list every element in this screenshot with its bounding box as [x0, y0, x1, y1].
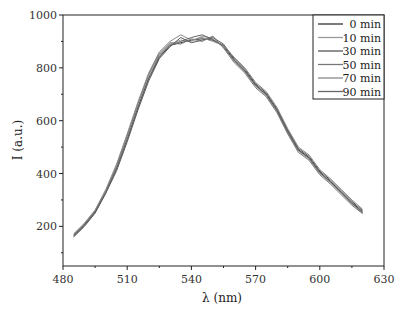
x-tick-label: 480 — [53, 273, 74, 286]
legend-label: 0 min — [349, 18, 381, 31]
legend-label: 70 min — [342, 72, 381, 85]
y-tick-label: 600 — [36, 115, 57, 128]
y-tick-label: 1000 — [29, 9, 57, 22]
x-tick-label: 570 — [245, 273, 266, 286]
y-tick-label: 400 — [36, 168, 57, 181]
y-axis: 2004006008001000 — [29, 9, 63, 253]
x-axis-label: λ (nm) — [202, 291, 242, 305]
x-tick-label: 630 — [374, 273, 395, 286]
legend-label: 10 min — [342, 32, 381, 45]
x-tick-label: 600 — [309, 273, 330, 286]
legend-label: 50 min — [342, 59, 381, 72]
legend: 0 min10 min30 min50 min70 min90 min — [313, 15, 384, 99]
legend-label: 90 min — [342, 86, 381, 99]
y-tick-label: 800 — [36, 62, 57, 75]
x-tick-label: 540 — [181, 273, 202, 286]
legend-label: 30 min — [342, 45, 381, 58]
y-axis-label: I (a.u.) — [11, 120, 25, 160]
x-tick-label: 510 — [117, 273, 138, 286]
x-axis: 480510540570600630 — [53, 266, 395, 286]
line-chart: 2004006008001000 480510540570600630 0 mi… — [0, 0, 409, 319]
y-tick-label: 200 — [36, 220, 57, 233]
